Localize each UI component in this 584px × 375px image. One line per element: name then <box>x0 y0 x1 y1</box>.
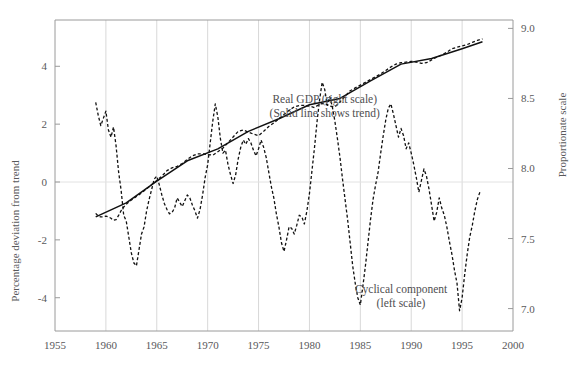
ytick-label-right-7: 7.0 <box>521 303 535 315</box>
ytick-label-left-0: 0 <box>42 176 48 188</box>
ytick-label-right-7.5: 7.5 <box>521 233 535 245</box>
figure-background <box>0 0 584 375</box>
xtick-label-1980: 1980 <box>298 339 321 351</box>
cyclical-component-annotation-line-0: Cyclical component <box>355 283 448 296</box>
real-gdp-annotation-line-0: Real GDP (right scale) <box>272 93 377 106</box>
ytick-label-left-4: 4 <box>42 60 48 72</box>
ytick-label-right-9: 9.0 <box>521 22 535 34</box>
xtick-label-1985: 1985 <box>349 339 372 351</box>
ytick-label-left--2: -2 <box>38 234 47 246</box>
cyclical-component-annotation-line-1: (left scale) <box>377 297 426 310</box>
ytick-label-right-8: 8.0 <box>521 162 535 174</box>
chart-canvas: 1955196019651970197519801985199019952000… <box>0 0 584 375</box>
xtick-label-1970: 1970 <box>197 339 220 351</box>
left-axis-title: Percentage deviation from trend <box>9 160 21 302</box>
xtick-label-2000: 2000 <box>502 339 525 351</box>
real-gdp-annotation-line-1: (Solid line shows trend) <box>270 107 380 120</box>
xtick-label-1960: 1960 <box>95 339 118 351</box>
xtick-label-1990: 1990 <box>400 339 423 351</box>
xtick-label-1975: 1975 <box>248 339 271 351</box>
ytick-label-left--4: -4 <box>38 292 48 304</box>
xtick-label-1965: 1965 <box>146 339 169 351</box>
ytick-label-left-2: 2 <box>42 118 48 130</box>
xtick-label-1955: 1955 <box>44 339 67 351</box>
xtick-label-1995: 1995 <box>451 339 474 351</box>
chart-figure: 1955196019651970197519801985199019952000… <box>0 0 584 375</box>
right-axis-title: Proportionate scale <box>556 93 568 178</box>
ytick-label-right-8.5: 8.5 <box>521 92 535 104</box>
real-gdp-annotation: Real GDP (right scale)(Solid line shows … <box>270 93 380 120</box>
